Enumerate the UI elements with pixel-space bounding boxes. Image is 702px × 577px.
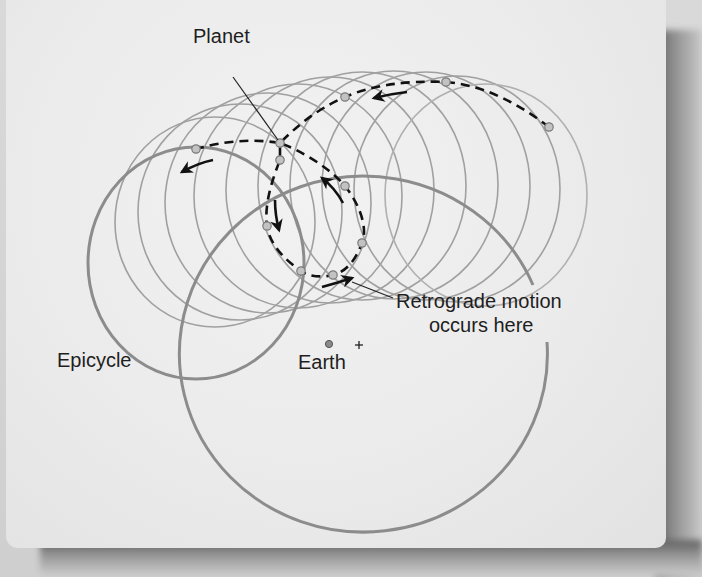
planet-path bbox=[196, 82, 549, 277]
epicycle-trail-circles bbox=[115, 71, 587, 327]
earth-dot-icon bbox=[325, 340, 332, 347]
planet-points bbox=[192, 78, 553, 279]
epicycle-label: Epicycle bbox=[57, 349, 131, 371]
center-plus-icon bbox=[355, 341, 363, 349]
retrograde-label-line1: Retrograde motion bbox=[396, 290, 562, 312]
earth-label: Earth bbox=[298, 351, 346, 373]
planet-label: Planet bbox=[193, 25, 250, 47]
retrograde-label-line2: occurs here bbox=[429, 314, 534, 336]
arrow-retro-down-icon bbox=[275, 200, 279, 230]
epicycle-diagram bbox=[0, 0, 702, 577]
